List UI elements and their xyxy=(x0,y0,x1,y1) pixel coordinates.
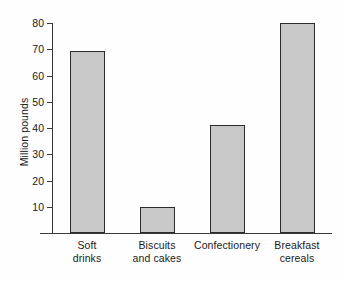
x-axis-category-label: Breakfastcereals xyxy=(262,239,332,264)
x-axis-category-label: Biscuitsand cakes xyxy=(122,239,192,264)
x-axis-category-label: Softdrinks xyxy=(52,239,122,264)
category-label-line: Biscuits xyxy=(122,239,192,252)
y-axis-tick-label: 40 xyxy=(4,123,44,133)
category-label-line: Breakfast xyxy=(262,239,332,252)
category-label-line: and cakes xyxy=(122,252,192,265)
y-axis-tick-label: 70 xyxy=(4,44,44,54)
bar xyxy=(210,125,245,233)
x-axis-category-label: Confectionery xyxy=(192,239,262,252)
category-label-line: drinks xyxy=(52,252,122,265)
y-axis-tick-label: 20 xyxy=(4,176,44,186)
bar xyxy=(70,51,105,233)
y-axis-tick-label: 60 xyxy=(4,71,44,81)
category-label-line: cereals xyxy=(262,252,332,265)
plot-area xyxy=(52,23,332,233)
y-axis-tick-label: 80 xyxy=(4,18,44,28)
bar-chart-figure: Million pounds 1020304050607080 Softdrin… xyxy=(0,0,339,281)
bar xyxy=(280,23,315,233)
category-label-line: Confectionery xyxy=(192,239,262,252)
y-axis-tick-label: 10 xyxy=(4,202,44,212)
y-axis-tick-label: 50 xyxy=(4,97,44,107)
y-axis-tick-label: 30 xyxy=(4,149,44,159)
x-axis-line xyxy=(40,233,332,234)
category-label-line: Soft xyxy=(52,239,122,252)
bar xyxy=(140,207,175,233)
